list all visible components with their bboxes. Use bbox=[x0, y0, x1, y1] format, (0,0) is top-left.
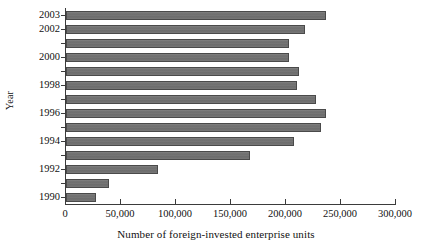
y-axis-title-text: Year bbox=[5, 90, 16, 109]
bar-2003 bbox=[66, 11, 326, 20]
bar-2000 bbox=[66, 53, 289, 62]
bar-2001 bbox=[66, 39, 289, 48]
y-axis-tick-2003 bbox=[61, 15, 65, 16]
x-axis-tick-300000 bbox=[395, 199, 396, 205]
x-axis-label-200000: 200,000 bbox=[268, 208, 302, 220]
bar-1995 bbox=[66, 123, 321, 132]
bar-1996 bbox=[66, 109, 326, 118]
x-axis-tick-100000 bbox=[175, 199, 176, 205]
y-axis-tick-1995 bbox=[61, 127, 65, 128]
x-axis-label-250000: 250,000 bbox=[323, 208, 357, 220]
x-axis-label-100000: 100,000 bbox=[158, 208, 192, 220]
bar-1994 bbox=[66, 137, 294, 146]
y-axis-tick-1994 bbox=[61, 141, 65, 142]
bar-1993 bbox=[66, 151, 250, 160]
x-axis-label-0: 0 bbox=[62, 208, 67, 220]
x-axis-label-300000: 300,000 bbox=[378, 208, 412, 220]
y-axis-line bbox=[65, 8, 66, 204]
y-axis-label-2000: 2000 bbox=[39, 52, 60, 62]
y-axis-tick-1996 bbox=[61, 113, 65, 114]
x-axis-label-50000: 50,000 bbox=[106, 208, 135, 220]
bar-1991 bbox=[66, 179, 109, 188]
bar-1999 bbox=[66, 67, 299, 76]
y-axis-tick-1998 bbox=[61, 85, 65, 86]
y-axis-tick-1993 bbox=[61, 155, 65, 156]
x-axis-tick-250000 bbox=[340, 199, 341, 205]
x-axis-title: Number of foreign-invested enterprise un… bbox=[0, 228, 432, 240]
bar-1997 bbox=[66, 95, 316, 104]
bar-1998 bbox=[66, 81, 297, 90]
y-axis-tick-2000 bbox=[61, 57, 65, 58]
y-axis-tick-1999 bbox=[61, 71, 65, 72]
plot-area bbox=[65, 8, 395, 204]
y-axis-label-1998: 1998 bbox=[39, 80, 60, 90]
bar-chart: Year 20032002200019981996199419921990 05… bbox=[0, 0, 432, 247]
x-axis-tick-200000 bbox=[285, 199, 286, 205]
y-axis-label-1992: 1992 bbox=[39, 164, 60, 174]
x-axis-tick-0 bbox=[65, 199, 66, 205]
y-axis-tick-labels: 20032002200019981996199419921990 bbox=[16, 8, 64, 204]
x-axis-tick-50000 bbox=[120, 199, 121, 205]
y-axis-tick-1997 bbox=[61, 99, 65, 100]
y-axis-tick-1992 bbox=[61, 169, 65, 170]
y-axis-label-1996: 1996 bbox=[39, 108, 60, 118]
y-axis-tick-1991 bbox=[61, 183, 65, 184]
y-axis-tick-2002 bbox=[61, 29, 65, 30]
x-axis-tick-labels: 050,000100,000150,000200,000250,000300,0… bbox=[0, 208, 432, 222]
bar-2002 bbox=[66, 25, 305, 34]
x-axis-label-150000: 150,000 bbox=[213, 208, 247, 220]
y-axis-tick-2001 bbox=[61, 43, 65, 44]
bar-1990 bbox=[66, 193, 96, 202]
y-axis-tick-1990 bbox=[61, 197, 65, 198]
y-axis-label-2003: 2003 bbox=[39, 10, 60, 20]
x-axis-title-text: Number of foreign-invested enterprise un… bbox=[117, 228, 314, 240]
y-axis-label-1994: 1994 bbox=[39, 136, 60, 146]
x-axis-tick-150000 bbox=[230, 199, 231, 205]
y-axis-label-1990: 1990 bbox=[39, 192, 60, 202]
bar-1992 bbox=[66, 165, 158, 174]
y-axis-label-2002: 2002 bbox=[39, 24, 60, 34]
